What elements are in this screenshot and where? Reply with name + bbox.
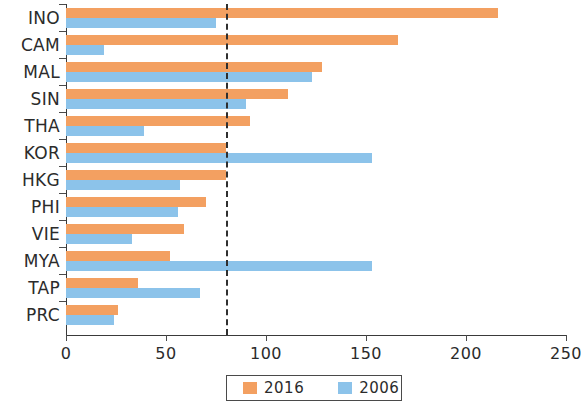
bar-prc-2006: [66, 315, 114, 325]
bar-tha-2006: [66, 126, 144, 136]
category-label-prc: PRC: [26, 305, 60, 325]
bar-sin-2006: [66, 99, 246, 109]
x-tick-100: [266, 335, 267, 341]
bar-cam-2006: [66, 45, 104, 55]
category-label-hkg: HKG: [22, 170, 60, 190]
bar-mya-2006: [66, 261, 372, 271]
bar-ino-2006: [66, 18, 216, 28]
bar-phi-2006: [66, 207, 178, 217]
bar-kor-2006: [66, 153, 372, 163]
category-label-mya: MYA: [24, 251, 60, 271]
x-tick-50: [166, 335, 167, 341]
bar-mal-2016: [66, 62, 322, 72]
y-tick-tha: [59, 112, 66, 113]
x-tick-label-0: 0: [61, 344, 72, 363]
category-label-sin: SIN: [31, 89, 60, 109]
x-tick-label-50: 50: [155, 344, 176, 363]
y-tick-cam: [59, 31, 66, 32]
category-label-phi: PHI: [31, 197, 60, 217]
y-tick-mal: [59, 58, 66, 59]
y-tick-tap: [59, 274, 66, 275]
bar-cam-2016: [66, 35, 398, 45]
y-tick-ino: [59, 4, 66, 5]
bar-ino-2016: [66, 8, 498, 18]
bar-mal-2006: [66, 72, 312, 82]
bar-hkg-2016: [66, 170, 226, 180]
x-tick-label-250: 250: [550, 344, 582, 363]
bar-tap-2016: [66, 278, 138, 288]
legend-swatch-2006-icon: [338, 382, 352, 394]
category-label-tha: THA: [24, 116, 60, 136]
category-label-kor: KOR: [24, 143, 60, 163]
bar-kor-2016: [66, 143, 226, 153]
bar-tap-2006: [66, 288, 200, 298]
y-tick-hkg: [59, 166, 66, 167]
bar-vie-2016: [66, 224, 184, 234]
horizontal-bar-chart: INOCAMMALSINTHAKORHKGPHIVIEMYATAPPRC 050…: [0, 0, 585, 405]
legend-item-2006: 2006: [338, 379, 399, 397]
category-label-vie: VIE: [32, 224, 60, 244]
category-label-mal: MAL: [23, 62, 60, 82]
x-tick-label-150: 150: [350, 344, 382, 363]
x-tick-label-200: 200: [450, 344, 482, 363]
x-tick-150: [366, 335, 367, 341]
legend-item-2016: 2016: [243, 379, 304, 397]
bar-phi-2016: [66, 197, 206, 207]
legend-label-2016: 2016: [264, 379, 304, 397]
x-axis-line: [66, 335, 566, 336]
reference-line-80: [226, 4, 228, 335]
y-tick-mya: [59, 247, 66, 248]
x-tick-label-100: 100: [250, 344, 282, 363]
category-label-tap: TAP: [28, 278, 60, 298]
x-tick-200: [466, 335, 467, 341]
x-tick-250: [566, 335, 567, 341]
bar-hkg-2006: [66, 180, 180, 190]
y-tick-prc: [59, 301, 66, 302]
y-tick-vie: [59, 220, 66, 221]
x-tick-0: [66, 335, 67, 341]
legend-swatch-2016-icon: [243, 382, 257, 394]
bar-vie-2006: [66, 234, 132, 244]
category-label-cam: CAM: [21, 35, 60, 55]
y-tick-kor: [59, 139, 66, 140]
bar-mya-2016: [66, 251, 170, 261]
category-label-ino: INO: [28, 8, 60, 28]
y-tick-sin: [59, 85, 66, 86]
legend-label-2006: 2006: [359, 379, 399, 397]
bar-prc-2016: [66, 305, 118, 315]
chart-legend: 2016 2006: [226, 375, 402, 401]
bar-sin-2016: [66, 89, 288, 99]
bar-tha-2016: [66, 116, 250, 126]
plot-area: [66, 4, 566, 334]
y-tick-phi: [59, 193, 66, 194]
